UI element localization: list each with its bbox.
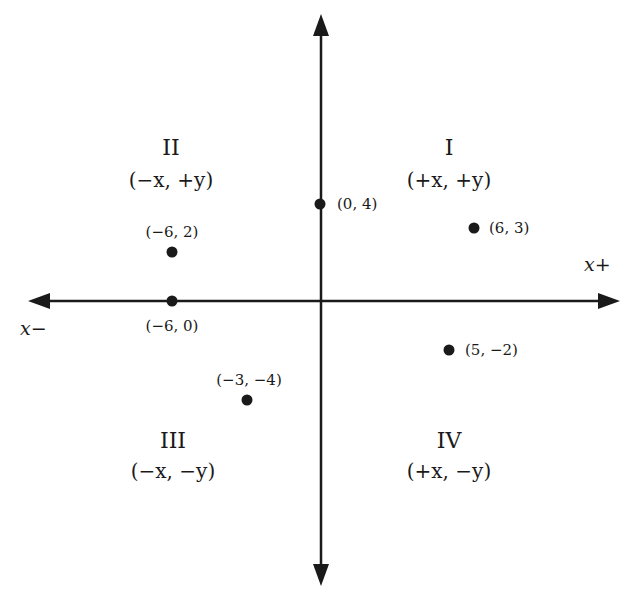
- quadrant-numeral: I: [445, 135, 454, 160]
- point-label: (0, 4): [337, 195, 377, 213]
- quadrant-signs: (−x, +y): [129, 168, 213, 192]
- point-label: (−3, −4): [216, 371, 281, 389]
- point-neg6-2: (−6, 2): [146, 223, 199, 258]
- point-marker: [469, 223, 480, 234]
- point-marker: [315, 199, 326, 210]
- quadrant-signs: (+x, −y): [407, 459, 491, 483]
- quadrant-signs: (+x, +y): [407, 168, 491, 192]
- quadrant-numeral: IV: [437, 428, 463, 453]
- point-marker: [167, 296, 178, 307]
- quadrant-numeral: III: [160, 428, 186, 453]
- x-axis: [28, 293, 620, 309]
- point-neg3-neg4: (−3, −4): [216, 371, 281, 406]
- quadrant-IV: IV (+x, −y): [407, 428, 491, 483]
- point-0-4: (0, 4): [315, 195, 378, 213]
- point-label: (−6, 0): [146, 317, 199, 335]
- x-positive-label: x+: [584, 253, 611, 275]
- point-6-3: (6, 3): [469, 219, 530, 237]
- quadrant-II: II (−x, +y): [129, 135, 213, 192]
- x-axis-right-arrow-icon: [598, 293, 620, 309]
- coordinate-plane: x+ x− I (+x, +y) II (−x, +y) III (−x, −y…: [0, 0, 628, 598]
- point-label: (6, 3): [489, 219, 529, 237]
- quadrant-numeral: II: [162, 135, 179, 160]
- quadrant-III: III (−x, −y): [131, 428, 215, 483]
- point-5-neg2: (5, −2): [444, 341, 518, 359]
- point-marker: [167, 247, 178, 258]
- point-marker: [444, 345, 455, 356]
- y-axis-top-arrow-icon: [313, 14, 329, 36]
- quadrant-I: I (+x, +y): [407, 135, 491, 192]
- point-marker: [242, 395, 253, 406]
- x-axis-left-arrow-icon: [28, 293, 50, 309]
- point-label: (5, −2): [465, 341, 518, 359]
- point-label: (−6, 2): [146, 223, 199, 241]
- quadrant-signs: (−x, −y): [131, 459, 215, 483]
- x-negative-label: x−: [20, 317, 47, 339]
- y-axis-bottom-arrow-icon: [313, 564, 329, 586]
